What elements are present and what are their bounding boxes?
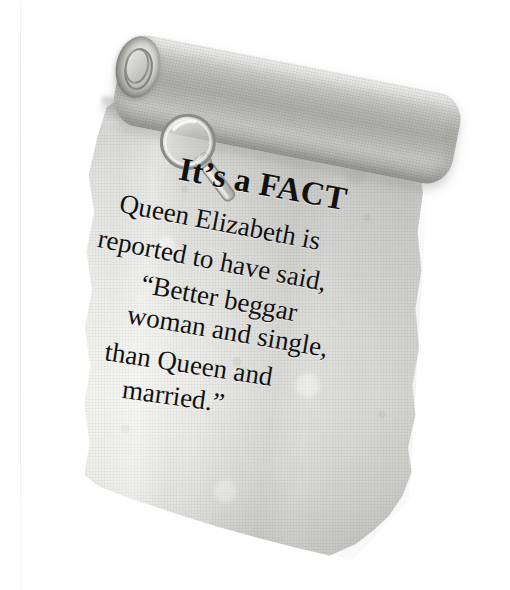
magnifying-glass-icon <box>135 103 241 216</box>
scroll-illustration: It’s a FACT Queen Elizabeth is reported … <box>0 0 510 590</box>
illustration-canvas: It’s a FACT Queen Elizabeth is reported … <box>0 0 510 590</box>
